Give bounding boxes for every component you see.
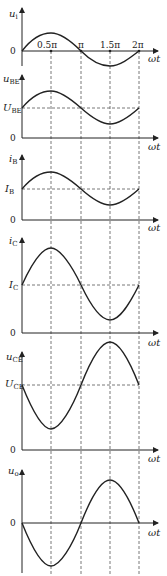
svg-text:0: 0	[10, 215, 16, 225]
svg-text:iB: iB	[9, 153, 17, 166]
waveform-diagram: ui 0 0.5π π 1.5π 2π ωt uBE UBE 0 ωt iB I…	[0, 0, 167, 576]
svg-text:ωt: ωt	[148, 453, 161, 464]
svg-text:ωt: ωt	[148, 527, 161, 538]
ube-waveform	[22, 91, 139, 124]
tick-1-5pi: 1.5π	[100, 40, 120, 50]
svg-text:uo: uo	[8, 465, 19, 478]
svg-text:uBE: uBE	[3, 73, 20, 86]
svg-text:UCE: UCE	[5, 378, 24, 391]
svg-text:0: 0	[10, 445, 16, 455]
panel-uce: ωt uCE UCE 0 ωt	[5, 337, 161, 464]
uce-waveform	[22, 342, 139, 429]
svg-text:0: 0	[10, 518, 16, 528]
panel-ic: iC IC 0	[8, 235, 158, 338]
svg-text:IC: IC	[8, 279, 18, 292]
panel-ib: iB IB 0 ωt	[4, 153, 161, 233]
panel-uo: uo 0 ωt	[8, 465, 161, 573]
svg-text:0: 0	[10, 133, 16, 143]
panel-ube: uBE UBE 0 ωt	[3, 73, 161, 152]
svg-text:0: 0	[10, 328, 16, 338]
panel-ui: ui 0 0.5π π 1.5π 2π ωt	[9, 8, 161, 66]
x-label: ωt	[148, 53, 161, 64]
tick-2pi: 2π	[132, 40, 144, 50]
svg-text:uCE: uCE	[6, 351, 23, 364]
svg-text:ωt: ωt	[148, 337, 161, 348]
y-label-ui: ui	[9, 8, 18, 21]
phase-guide-lines	[51, 51, 139, 576]
zero-label: 0	[10, 46, 16, 56]
tick-0-5pi: 0.5π	[37, 40, 57, 50]
svg-text:UBE: UBE	[3, 102, 22, 115]
svg-text:IB: IB	[4, 183, 14, 196]
ic-waveform	[22, 248, 139, 320]
svg-text:ωt: ωt	[148, 222, 161, 233]
svg-text:iC: iC	[9, 235, 18, 248]
ib-waveform	[22, 172, 139, 205]
svg-text:ωt: ωt	[148, 141, 161, 152]
